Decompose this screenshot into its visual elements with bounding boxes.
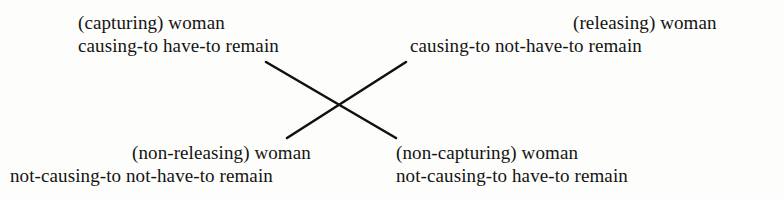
term-paraphrase-capturing: causing-to have-to remain	[78, 34, 279, 57]
semiotic-square-diagram: (capturing) woman causing-to have-to rem…	[0, 0, 784, 199]
term-paraphrase-non-capturing: not-causing-to have-to remain	[396, 164, 628, 187]
term-paraphrase-non-releasing: not-causing-to not-have-to remain	[10, 164, 311, 187]
term-label-releasing: (releasing) woman causing-to not-have-to…	[410, 11, 717, 57]
term-label-non-capturing: (non-capturing) woman not-causing-to hav…	[396, 141, 628, 187]
term-paraphrase-releasing: causing-to not-have-to remain	[410, 34, 717, 57]
term-gloss-non-releasing: (non-releasing) woman	[10, 141, 311, 164]
diagonal-line-capturing-to-non-capturing	[266, 62, 396, 138]
diagonal-line-releasing-to-non-releasing	[287, 62, 406, 138]
term-label-non-releasing: (non-releasing) woman not-causing-to not…	[10, 141, 311, 187]
term-gloss-non-capturing: (non-capturing) woman	[396, 141, 628, 164]
term-gloss-releasing: (releasing) woman	[410, 11, 717, 34]
term-label-capturing: (capturing) woman causing-to have-to rem…	[78, 11, 279, 57]
term-gloss-capturing: (capturing) woman	[78, 11, 279, 34]
